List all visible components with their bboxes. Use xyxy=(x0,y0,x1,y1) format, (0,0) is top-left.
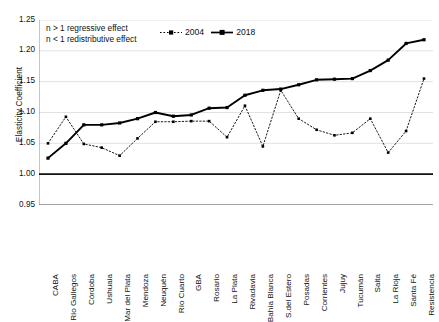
x-axis-tick-labels: CABARío GallegosCórdobaUshuaiaMar del Pl… xyxy=(39,206,433,277)
annotation-text: n > 1 regressive effect n < 1 redistribu… xyxy=(46,23,136,45)
data-point-marker xyxy=(118,154,121,157)
y-tick-label: 1.15 xyxy=(7,77,35,85)
annotation-line-1: n > 1 regressive effect xyxy=(46,23,136,34)
data-point-marker xyxy=(387,151,390,154)
legend-solid-line-icon xyxy=(211,28,233,37)
x-tick-label: Mendoza xyxy=(141,274,150,307)
data-point-marker xyxy=(243,94,246,97)
x-tick-label: Bahía Blanca xyxy=(266,274,275,322)
data-point-marker xyxy=(154,120,157,123)
data-point-marker xyxy=(136,117,139,120)
y-tick-label: 1.00 xyxy=(7,170,35,178)
data-point-marker xyxy=(82,123,85,126)
x-tick-label: Río Gallegos xyxy=(69,274,78,321)
data-point-marker xyxy=(225,106,228,109)
annotation-line-2: n < 1 redistributive effect xyxy=(46,34,136,45)
x-tick-label: Jujuy xyxy=(338,274,347,293)
data-point-marker xyxy=(208,107,211,110)
data-point-marker xyxy=(83,143,86,146)
x-tick-label: Ushuaia xyxy=(105,274,114,304)
series-canvas xyxy=(39,20,433,205)
data-point-marker xyxy=(118,121,121,124)
series-line-2018 xyxy=(48,40,424,158)
data-point-marker xyxy=(297,117,300,120)
y-tick-label: 1.10 xyxy=(7,108,35,116)
data-point-marker xyxy=(279,87,282,90)
data-point-marker xyxy=(333,134,336,137)
data-point-marker xyxy=(244,104,247,107)
legend-dotted-line-icon xyxy=(160,28,182,37)
data-point-marker xyxy=(65,116,68,119)
x-tick-label: La Rioja xyxy=(391,274,400,304)
legend-label-2004: 2004 xyxy=(185,27,204,37)
data-point-marker xyxy=(369,117,372,120)
data-point-marker xyxy=(47,142,50,145)
data-point-marker xyxy=(405,130,408,133)
data-point-marker xyxy=(387,58,390,61)
data-point-marker xyxy=(315,128,318,131)
x-tick-label: Corrientes xyxy=(320,274,329,311)
data-point-marker xyxy=(172,115,175,118)
x-tick-label: Posadas xyxy=(302,274,311,306)
x-tick-label: GBA xyxy=(194,274,203,291)
x-tick-label: Rosario xyxy=(212,274,221,302)
data-point-marker xyxy=(423,77,426,80)
plot-area xyxy=(39,20,433,205)
x-tick-label: Resistencia xyxy=(427,274,436,316)
x-tick-label: Santa Fé xyxy=(409,274,418,307)
x-tick-label: Córdoba xyxy=(87,274,96,305)
x-tick-label: Tucumán xyxy=(356,274,365,307)
x-tick-label: Rivadavia xyxy=(248,274,257,310)
data-point-marker xyxy=(369,69,372,72)
y-tick-label: 1.20 xyxy=(7,46,35,54)
data-point-marker xyxy=(226,136,229,139)
data-point-marker xyxy=(46,157,49,160)
data-point-marker xyxy=(154,111,157,114)
data-point-marker xyxy=(333,78,336,81)
y-tick-label: 1.05 xyxy=(7,139,35,147)
x-tick-label: Salta xyxy=(373,274,382,292)
data-point-marker xyxy=(100,146,103,149)
legend-item-2018[interactable]: 2018 xyxy=(211,27,255,37)
data-point-marker xyxy=(351,77,354,80)
series-line-2004 xyxy=(48,79,424,156)
data-point-marker xyxy=(190,113,193,116)
legend-item-2004[interactable]: 2004 xyxy=(160,27,204,37)
y-axis-tick-labels: 1.251.201.151.101.051.000.95 xyxy=(5,0,35,277)
chart-legend: 2004 2018 xyxy=(160,27,255,37)
data-point-marker xyxy=(261,89,264,92)
y-tick-label: 0.95 xyxy=(7,201,35,209)
data-point-marker xyxy=(315,78,318,81)
y-tick-label: 1.25 xyxy=(7,16,35,24)
x-tick-label: Río Cuarto xyxy=(177,274,186,313)
data-point-marker xyxy=(262,145,265,148)
data-point-marker xyxy=(351,132,354,135)
legend-label-2018: 2018 xyxy=(236,27,255,37)
data-point-marker xyxy=(136,137,139,140)
data-point-marker xyxy=(64,142,67,145)
data-point-marker xyxy=(422,38,425,41)
x-tick-label: S.del Estero xyxy=(284,274,293,318)
data-point-marker xyxy=(172,120,175,123)
data-point-marker xyxy=(297,83,300,86)
x-tick-label: Mar del Plata xyxy=(123,274,132,322)
x-tick-label: La Plata xyxy=(230,274,239,304)
data-point-marker xyxy=(208,120,211,123)
data-point-marker xyxy=(190,120,193,123)
data-point-marker xyxy=(100,123,103,126)
data-point-marker xyxy=(404,42,407,45)
x-tick-label: Neuquén xyxy=(159,274,168,307)
x-tick-label: CABA xyxy=(51,274,60,296)
